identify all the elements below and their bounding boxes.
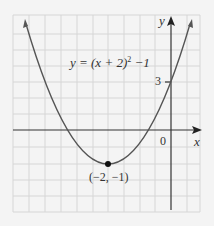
x-axis-label: x: [194, 134, 200, 150]
vertex-point: [105, 161, 111, 167]
tick-3-label: 3: [155, 74, 161, 89]
equation-label: y = (x + 2)2 −1: [70, 55, 150, 71]
equation-main: y = (x + 2): [70, 55, 127, 70]
origin-label: 0: [160, 134, 166, 149]
graph-canvas: [0, 0, 214, 226]
equation-tail: −1: [131, 55, 150, 70]
parabola-graph: y = (x + 2)2 −1 y x 0 3 (−2, −1): [0, 0, 214, 226]
y-axis-label: y: [159, 13, 165, 29]
vertex-label: (−2, −1): [89, 170, 129, 185]
